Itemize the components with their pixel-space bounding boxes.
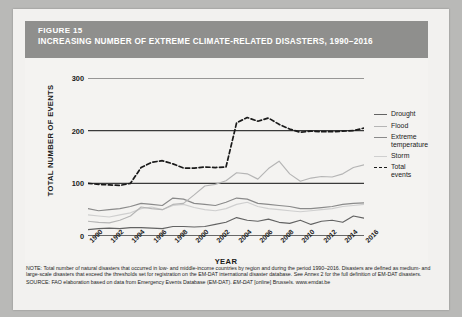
legend-swatch-total-events-icon [374, 163, 387, 171]
chart-plot-area: 0100200300199019921994199619982000200220… [88, 78, 364, 236]
y-axis-tick-label: 200 [72, 126, 84, 135]
source-prefix: SOURCE: FAO elaboration based on data fr… [26, 279, 233, 285]
chart-legend: DroughtFloodExtreme temperatureStormTota… [374, 110, 426, 182]
source-italic: EM-DAT [233, 279, 254, 285]
page-sheet: FIGURE 15 INCREASING NUMBER OF EXTREME C… [13, 9, 449, 310]
series-line-total-events [88, 118, 364, 186]
legend-item: Extreme temperature [374, 133, 426, 148]
legend-item: Total events [374, 163, 426, 178]
figure-notes: NOTE: Total number of natural disasters … [26, 265, 436, 287]
legend-swatch-flood-icon [374, 122, 387, 130]
figure-title: INCREASING NUMBER OF EXTREME CLIMATE-REL… [38, 37, 373, 46]
y-axis-tick-label: 300 [72, 74, 84, 83]
figure-number: FIGURE 15 [38, 26, 83, 35]
y-axis-tick-label: 0 [80, 232, 84, 241]
y-axis-tick-label: 100 [72, 179, 84, 188]
legend-swatch-storm-icon [374, 152, 387, 160]
note-text: NOTE: Total number of natural disasters … [26, 265, 436, 278]
legend-label: Extreme temperature [391, 133, 428, 148]
legend-item: Storm [374, 152, 426, 160]
legend-swatch-drought-icon [374, 110, 387, 118]
legend-swatch-extreme-temperature-icon [374, 133, 387, 141]
x-axis-tick-label: 2016 [364, 228, 380, 244]
source-suffix: [online] Brussels. www.emdat.be [254, 279, 330, 285]
figure-header-banner: FIGURE 15 INCREASING NUMBER OF EXTREME C… [25, 21, 428, 58]
legend-label: Storm [391, 152, 409, 160]
line-chart-svg [88, 78, 364, 236]
series-line-storm [88, 202, 364, 217]
legend-label: Flood [391, 122, 408, 130]
legend-label: Drought [391, 110, 416, 118]
legend-label: Total events [391, 163, 426, 178]
source-text: SOURCE: FAO elaboration based on data fr… [26, 279, 436, 285]
chart-card: TOTAL NUMBER OF EVENTS 01002003001990199… [25, 58, 428, 263]
y-axis-title: TOTAL NUMBER OF EVENTS [46, 66, 55, 216]
legend-item: Flood [374, 122, 426, 130]
legend-item: Drought [374, 110, 426, 118]
